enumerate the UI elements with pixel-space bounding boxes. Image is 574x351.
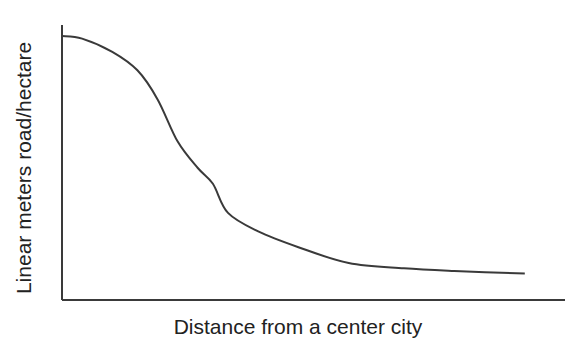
chart-plot (0, 0, 574, 351)
chart: Linear meters road/hectare Distance from… (0, 0, 574, 351)
x-axis-label: Distance from a center city (174, 315, 423, 339)
data-line (62, 36, 525, 274)
y-axis-label: Linear meters road/hectare (12, 42, 36, 294)
